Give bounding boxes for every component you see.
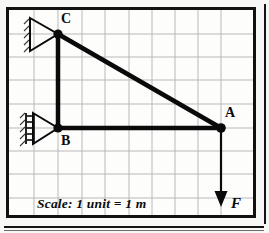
joint-C xyxy=(53,29,62,38)
truss-figure: C B A F Scale: 1 unit = 1 m xyxy=(0,0,269,233)
support-hatch-B xyxy=(20,113,25,146)
load-label-F: F xyxy=(231,196,241,211)
load-arrow-F xyxy=(215,128,228,207)
page-bottom-rule xyxy=(4,226,264,228)
node-label-C: C xyxy=(61,12,71,26)
diagram-canvas xyxy=(9,10,253,215)
page-right-rule xyxy=(264,4,266,224)
scale-note: Scale: 1 unit = 1 m xyxy=(37,196,146,212)
page-bottom-rule-secondary xyxy=(4,230,264,231)
support-hatch-C xyxy=(24,19,29,52)
node-label-A: A xyxy=(225,106,235,120)
load-arrow-head xyxy=(215,191,228,207)
cut-off-header-strip xyxy=(0,0,269,7)
support-pin-B xyxy=(20,113,58,146)
figure-frame: C B A F Scale: 1 unit = 1 m xyxy=(6,7,256,218)
node-label-B: B xyxy=(61,134,70,148)
joint-B xyxy=(53,123,62,132)
support-pin-C xyxy=(24,18,58,52)
